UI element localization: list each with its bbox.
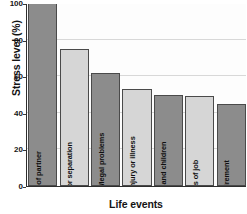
bar-category-label: Death of partner <box>34 151 43 186</box>
y-tick-label: 80 <box>14 37 23 45</box>
bar[interactable]: Marriage and children <box>154 95 183 187</box>
bar[interactable]: Prison term/legal problems <box>91 73 120 186</box>
bar-category-label: Divorce or separation <box>65 142 74 186</box>
y-tick-label: 40 <box>14 110 23 118</box>
y-tick-label: 60 <box>14 73 23 81</box>
bar[interactable]: Loss of job <box>185 96 214 186</box>
bars-group: Death of partnerDivorce or separationPri… <box>27 4 246 186</box>
y-tick-label: 100 <box>10 0 23 8</box>
bar[interactable]: Death of partner <box>28 4 57 186</box>
bar[interactable]: Retirement <box>217 104 246 186</box>
bar-category-label: Personal injury or illness <box>128 136 137 186</box>
y-axis-tick-labels: 020406080100 <box>0 0 26 214</box>
x-axis-title: Life events <box>26 198 246 210</box>
plot-area: Death of partnerDivorce or separationPri… <box>26 4 246 187</box>
y-tick-label: 20 <box>14 146 23 154</box>
y-tick-mark <box>23 187 26 188</box>
bar-category-label: Marriage and children <box>159 142 168 186</box>
bar[interactable]: Divorce or separation <box>60 49 89 186</box>
bar-chart: Stress level (%) 020406080100 Death of p… <box>0 0 247 214</box>
bar-category-label: Retirement <box>222 160 231 186</box>
bar[interactable]: Personal injury or illness <box>122 89 151 186</box>
bar-category-label: Prison term/legal problems <box>97 133 106 186</box>
bar-category-label: Loss of job <box>191 160 200 186</box>
